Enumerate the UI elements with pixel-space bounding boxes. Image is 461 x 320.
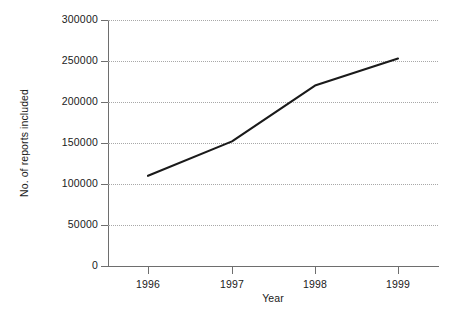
gridline-50000	[108, 225, 438, 226]
y-tick-mark-200000	[101, 102, 108, 103]
gridline-200000	[108, 102, 438, 103]
x-tick-mark-1997	[232, 267, 233, 274]
y-tick-label-100000: 100000	[12, 177, 98, 190]
y-tick-label-0: 0	[12, 259, 98, 272]
x-tick-label-1998: 1998	[285, 278, 345, 290]
x-tick-label-1999: 1999	[368, 278, 428, 290]
y-tick-mark-100000	[101, 184, 108, 185]
plot-area	[108, 20, 438, 266]
y-tick-mark-50000	[101, 225, 108, 226]
y-tick-label-50000-wrap: 50000	[6, 218, 98, 231]
gridline-150000	[108, 143, 438, 144]
gridline-250000	[108, 61, 438, 62]
x-tick-mark-1996	[148, 267, 149, 274]
y-tick-label-150000: 150000	[12, 136, 98, 149]
y-tick-label-300000-wrap: 300000	[6, 13, 98, 26]
y-tick-label-300000: 300000	[12, 13, 98, 26]
x-tick-mark-1999	[398, 267, 399, 274]
y-tick-label-150000-wrap: 150000	[6, 136, 98, 149]
y-tick-mark-300000	[101, 20, 108, 21]
y-tick-mark-150000	[101, 143, 108, 144]
y-tick-mark-0	[101, 266, 108, 267]
x-axis-title: Year	[108, 292, 438, 304]
x-tick-label-1997: 1997	[202, 278, 262, 290]
y-tick-label-200000-wrap: 200000	[6, 95, 98, 108]
y-tick-label-0-wrap: 0	[6, 259, 98, 272]
line-chart-figure: No. of reports included 300000 250000 20…	[0, 0, 461, 320]
gridline-300000	[108, 20, 438, 21]
y-tick-label-200000: 200000	[12, 95, 98, 108]
x-axis-line	[108, 266, 439, 267]
y-tick-label-250000-wrap: 250000	[6, 54, 98, 67]
y-tick-label-100000-wrap: 100000	[6, 177, 98, 190]
gridline-100000	[108, 184, 438, 185]
y-tick-label-50000: 50000	[12, 218, 98, 231]
x-tick-mark-1998	[315, 267, 316, 274]
y-tick-mark-250000	[101, 61, 108, 62]
y-tick-label-250000: 250000	[12, 54, 98, 67]
x-tick-label-1996: 1996	[118, 278, 178, 290]
